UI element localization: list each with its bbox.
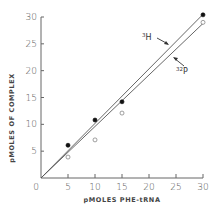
y-axis-title: pMOLES OF COMPLEX: [8, 73, 16, 163]
y-tick-label: 15: [26, 93, 37, 103]
arrowhead-3h-icon: [164, 41, 169, 45]
open-circle-marker: [120, 111, 124, 115]
annotation-32p: 32P: [173, 57, 188, 76]
x-tick-label: 0: [33, 182, 39, 192]
filled-circle-marker: [201, 13, 205, 17]
x-axis-title: pMOLES PHE-tRNA: [83, 196, 160, 204]
chart: 51015202530 051015202530 pMOLES OF COMPL…: [0, 0, 221, 214]
y-tick-label: 30: [26, 12, 37, 22]
open-circle-marker: [66, 155, 70, 159]
fit-line: [41, 14, 203, 178]
svg-text:3H: 3H: [142, 32, 152, 42]
y-tick-label: 20: [26, 66, 37, 76]
x-tick-label: 25: [170, 182, 181, 192]
y-axis: 51015202530: [26, 12, 44, 178]
y-tick-label: 10: [26, 119, 37, 129]
open-circle-marker: [201, 20, 205, 24]
x-tick-label: 30: [197, 182, 208, 192]
x-tick-label: 20: [143, 182, 154, 192]
fit-lines: [41, 14, 203, 178]
y-tick-label: 5: [31, 146, 37, 156]
svg-text:32P: 32P: [176, 66, 188, 76]
open-circle-marker: [93, 138, 97, 142]
annotation-3h: 3H: [142, 32, 169, 45]
data-points: [66, 13, 205, 159]
x-tick-label: 15: [116, 182, 127, 192]
filled-circle-marker: [66, 143, 70, 147]
filled-circle-marker: [120, 100, 124, 104]
x-tick-label: 5: [65, 182, 71, 192]
y-tick-label: 25: [26, 39, 37, 49]
filled-circle-marker: [93, 118, 97, 122]
x-tick-label: 10: [89, 182, 100, 192]
x-axis: 051015202530: [33, 174, 209, 192]
